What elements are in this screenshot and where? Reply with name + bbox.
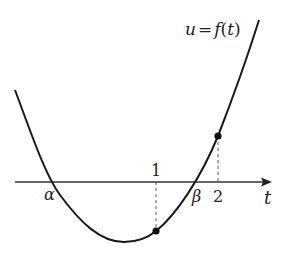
root-label-alpha: α [44, 185, 55, 204]
point-t1 [152, 227, 159, 234]
point-t2 [214, 132, 221, 139]
graph-canvas: u=f(t) 1 2 α β t [0, 0, 289, 265]
tick-label-2: 2 [213, 187, 223, 206]
parabola-curve [15, 20, 259, 242]
tick-label-1: 1 [151, 161, 161, 180]
axis-label-t: t [264, 187, 272, 208]
function-label: u=f(t) [185, 19, 241, 39]
root-label-beta: β [191, 187, 201, 206]
